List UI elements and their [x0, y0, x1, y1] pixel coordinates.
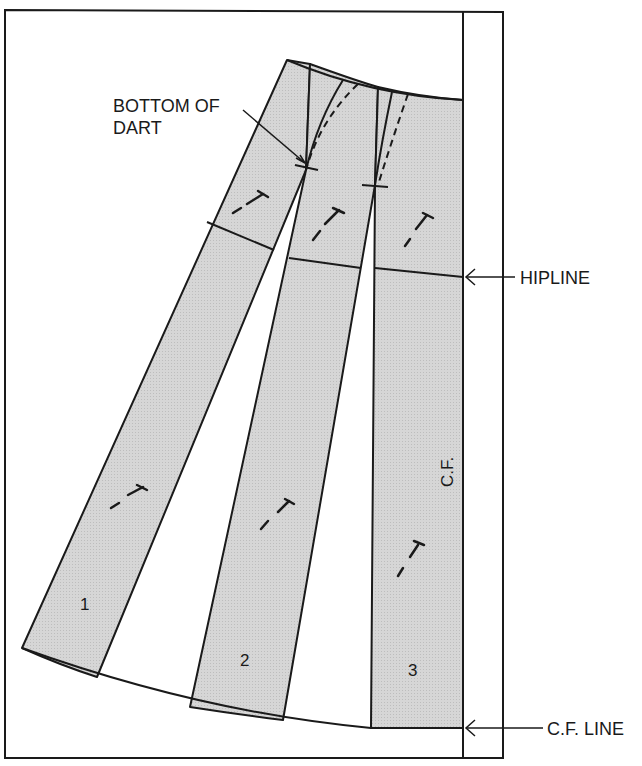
panel-3-number: 3 [408, 661, 417, 680]
bottom-of-dart-label-line2: DART [113, 118, 162, 138]
panel-1-number: 1 [80, 595, 89, 614]
hipline-arrow [466, 269, 515, 285]
bottom-of-dart-label-line1: BOTTOM OF [113, 96, 220, 116]
pattern-diagram: 1 2 3 BOTTOM OF DART HIPLINE C.F. LINE C… [0, 0, 642, 766]
panel-2-number: 2 [240, 651, 249, 670]
cf-vertical-label: C.F. [438, 457, 457, 487]
hipline-label: HIPLINE [520, 268, 590, 288]
cf-line-arrow [466, 720, 543, 736]
panel-3 [371, 87, 463, 728]
cf-line-label: C.F. LINE [547, 719, 624, 739]
